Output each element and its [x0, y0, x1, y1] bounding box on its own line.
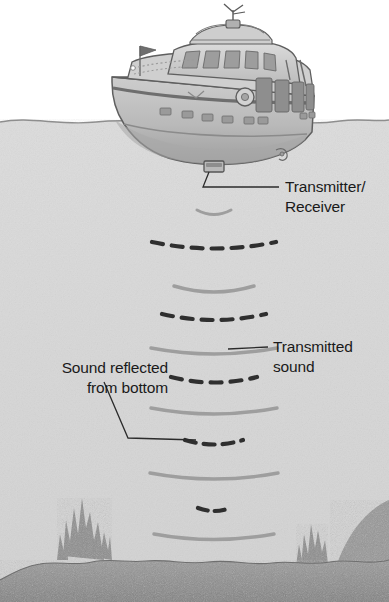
seafloor — [0, 560, 389, 602]
label-reflected-line1: Sound reflected — [62, 359, 168, 376]
label-reflected-line2: from bottom — [87, 379, 168, 396]
railing-end-cap — [131, 66, 136, 71]
life-ring-icon — [236, 88, 254, 106]
label-transmitter-line2: Receiver — [285, 198, 345, 215]
sonar-diagram: Transmitter/ Receiver Transmitted sound … — [0, 0, 389, 602]
label-transmitted-line1: Transmitted — [273, 338, 353, 355]
label-transmitted-line2: sound — [273, 358, 314, 375]
diagram-stage: Transmitter/ Receiver Transmitted sound … — [0, 0, 389, 602]
diagram-canvas: Transmitter/ Receiver Transmitted sound … — [0, 0, 389, 602]
transducer-face — [206, 163, 222, 167]
label-transmitter-line1: Transmitter/ — [285, 178, 366, 195]
